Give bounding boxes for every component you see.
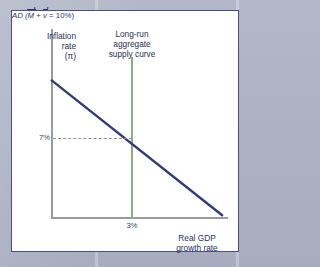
lras-annotation-line1: Long-run: [88, 29, 176, 39]
x-axis: [51, 217, 228, 219]
y-axis-title-line1: Inflation: [18, 31, 76, 41]
y-axis-title: Inflation rate (π): [18, 31, 76, 61]
x-axis-title-line2: growth rate: [160, 243, 234, 253]
ad-label-equals: = 10%): [47, 11, 74, 20]
lras-annotation-line2: aggregate: [88, 39, 176, 49]
x-axis-title: Real GDP growth rate: [160, 233, 234, 253]
figure-panel: Inflation rate (π) Long-run aggregate su…: [11, 10, 239, 252]
equilibrium-guide-line: [53, 138, 132, 139]
y-axis-title-line3: (π): [18, 51, 76, 61]
ad-label-money-growth: M: [28, 11, 35, 20]
ad-label-prefix: AD (: [12, 11, 28, 20]
y-axis-title-line2: rate: [18, 41, 76, 51]
plot-area: Inflation rate (π) Long-run aggregate su…: [12, 11, 238, 251]
lras-annotation-line3: supply curve: [88, 49, 176, 59]
x-axis-tick-label: 3%: [116, 221, 148, 230]
y-axis-tick-label: 7%: [26, 133, 50, 142]
ad-label-velocity-growth: v: [43, 11, 47, 20]
lras-annotation: Long-run aggregate supply curve: [88, 29, 176, 59]
x-axis-title-line1: Real GDP: [160, 233, 234, 243]
ad-curve-label: AD (M + v = 10%): [12, 11, 238, 20]
